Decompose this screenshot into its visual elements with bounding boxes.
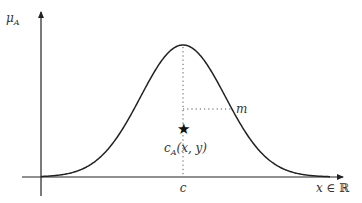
width-label: m bbox=[236, 102, 247, 116]
gaussian-curve bbox=[41, 45, 330, 177]
star-icon: ★ bbox=[177, 120, 190, 138]
center-label: c bbox=[180, 181, 187, 195]
y-axis-label: μA bbox=[6, 11, 20, 27]
gaussian-membership-diagram: ★ μA cA(x, y) m c x ∈ ℝ bbox=[0, 0, 362, 203]
x-axis-label: x ∈ ℝ bbox=[316, 181, 350, 195]
point-label: cA(x, y) bbox=[164, 141, 207, 157]
